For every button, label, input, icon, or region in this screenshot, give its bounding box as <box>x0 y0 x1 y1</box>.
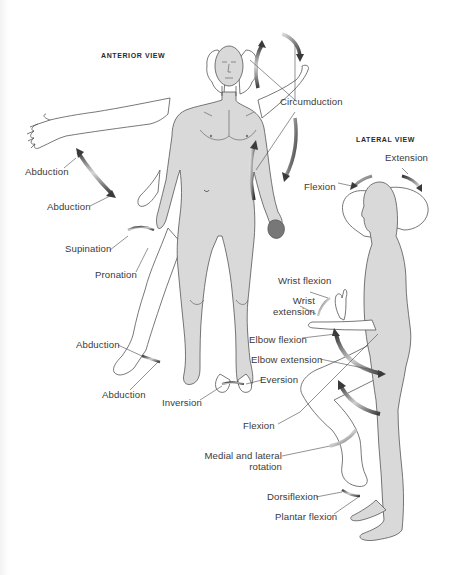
abducted-arm-ghost <box>31 98 170 148</box>
body-movements-diagram <box>0 0 454 575</box>
label-eversion: Eversion <box>260 374 298 385</box>
label-circumduction: Circumduction <box>280 96 343 107</box>
label-inversion: Inversion <box>162 397 202 408</box>
label-supination: Supination <box>65 243 111 254</box>
supination-pronation-arrow <box>128 227 154 230</box>
label-abduction-arm-upper: Abduction <box>25 166 69 177</box>
circumduction-arrow-upper-left <box>256 45 262 88</box>
raised-arm-ghost <box>258 65 309 118</box>
label-neck-flexion: Flexion <box>304 181 336 192</box>
neck-flexion-arrow <box>354 176 372 186</box>
label-wrist-extension-line2: extension <box>253 306 315 317</box>
label-wrist-flexion: Wrist flexion <box>278 275 331 286</box>
label-elbow-flexion: Elbow flexion <box>249 334 307 345</box>
anterior-view-heading: ANTERIOR VIEW <box>101 52 165 59</box>
label-rotation-line1: Medial and lateral <box>200 450 282 461</box>
anterior-right-fist <box>268 220 284 238</box>
dorsiflexion-arrow <box>342 490 360 496</box>
wrist-arrow <box>318 298 330 316</box>
abduction-leg-arrow <box>142 356 160 362</box>
lateral-extended-arm <box>308 320 376 330</box>
label-elbow-extension: Elbow extension <box>251 354 322 365</box>
circumduction-arrow-lower <box>286 118 296 176</box>
label-hip-flexion: Flexion <box>243 420 275 431</box>
label-abduction-leg-lower: Abduction <box>102 389 146 400</box>
label-medial-lateral-rotation: Medial and lateral rotation <box>200 450 282 472</box>
abduction-arm-arrow <box>78 152 112 194</box>
label-abduction-arm-lower: Abduction <box>47 201 91 212</box>
label-wrist-extension-line1: Wrist <box>253 295 315 306</box>
label-rotation-line2: rotation <box>200 461 282 472</box>
label-dorsiflexion: Dorsiflexion <box>267 491 318 502</box>
abducted-leg-ghost <box>113 228 182 375</box>
label-abduction-leg-upper: Abduction <box>76 339 120 350</box>
lateral-view-heading: LATERAL VIEW <box>356 136 415 143</box>
label-plantar-flexion: Plantar flexion <box>275 511 337 522</box>
label-pronation: Pronation <box>95 269 137 280</box>
neck-extension-arrow <box>402 176 420 188</box>
label-neck-extension: Extension <box>385 152 428 163</box>
lateral-hand-raised <box>335 289 347 320</box>
label-wrist-extension: Wrist extension <box>253 295 315 317</box>
inversion-eversion-arrow <box>222 383 244 385</box>
